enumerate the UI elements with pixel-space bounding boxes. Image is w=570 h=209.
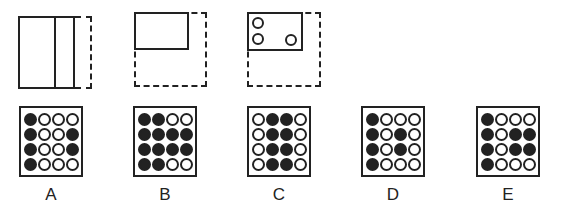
filled-dot	[481, 113, 494, 126]
empty-dot	[294, 113, 307, 126]
empty-dot	[38, 113, 51, 126]
option-b-box[interactable]	[133, 106, 197, 177]
fig2-solid-rect	[134, 12, 189, 50]
filled-dot	[66, 143, 79, 156]
filled-dot	[366, 128, 379, 141]
empty-dot	[294, 143, 307, 156]
empty-dot	[294, 128, 307, 141]
filled-dot	[509, 128, 522, 141]
filled-dot	[180, 143, 193, 156]
empty-dot	[38, 128, 51, 141]
filled-dot	[180, 128, 193, 141]
empty-dot	[495, 143, 508, 156]
filled-dot	[24, 158, 37, 171]
empty-dot	[252, 158, 265, 171]
filled-dot	[152, 158, 165, 171]
filled-dot	[509, 143, 522, 156]
filled-dot	[166, 128, 179, 141]
fig1-divider-line	[54, 16, 56, 89]
empty-dot	[52, 143, 65, 156]
fig1-outer-rect	[18, 16, 75, 89]
filled-dot	[152, 128, 165, 141]
filled-dot	[138, 113, 151, 126]
dot-grid	[24, 113, 78, 172]
empty-dot	[180, 113, 193, 126]
empty-dot	[495, 113, 508, 126]
filled-dot	[266, 128, 279, 141]
empty-dot	[252, 113, 265, 126]
filled-dot	[481, 143, 494, 156]
filled-dot	[138, 128, 151, 141]
empty-dot	[408, 113, 421, 126]
option-c-box[interactable]	[247, 106, 311, 177]
filled-dot	[280, 158, 293, 171]
empty-dot	[380, 113, 393, 126]
option-d-label: D	[361, 185, 425, 205]
empty-dot	[252, 143, 265, 156]
filled-dot	[166, 143, 179, 156]
filled-dot	[24, 113, 37, 126]
empty-dot	[380, 158, 393, 171]
filled-dot	[280, 113, 293, 126]
filled-dot	[266, 113, 279, 126]
empty-dot	[180, 158, 193, 171]
option-d-box[interactable]	[361, 106, 425, 177]
option-c-label: C	[247, 185, 311, 205]
fig3-circle-top-left	[252, 17, 264, 29]
empty-dot	[294, 158, 307, 171]
empty-dot	[408, 158, 421, 171]
filled-dot	[138, 143, 151, 156]
empty-dot	[408, 128, 421, 141]
empty-dot	[252, 128, 265, 141]
option-e-box[interactable]	[476, 106, 540, 177]
dot-grid	[366, 113, 420, 172]
dot-grid	[481, 113, 535, 172]
empty-dot	[166, 113, 179, 126]
option-b-label: B	[133, 185, 197, 205]
filled-dot	[366, 158, 379, 171]
empty-dot	[523, 113, 536, 126]
filled-dot	[152, 143, 165, 156]
filled-dot	[394, 143, 407, 156]
filled-dot	[366, 113, 379, 126]
filled-dot	[266, 143, 279, 156]
empty-dot	[523, 158, 536, 171]
filled-dot	[523, 128, 536, 141]
dot-grid	[138, 113, 192, 172]
filled-dot	[280, 128, 293, 141]
filled-dot	[152, 113, 165, 126]
empty-dot	[408, 143, 421, 156]
empty-dot	[166, 158, 179, 171]
filled-dot	[481, 128, 494, 141]
option-a-box[interactable]	[19, 106, 83, 177]
filled-dot	[66, 128, 79, 141]
filled-dot	[24, 143, 37, 156]
filled-dot	[523, 143, 536, 156]
filled-dot	[366, 143, 379, 156]
fig3-circle-bottom-right	[285, 34, 297, 46]
filled-dot	[394, 128, 407, 141]
fig1-dashed-strip	[75, 16, 92, 89]
option-a-label: A	[19, 185, 83, 205]
empty-dot	[394, 113, 407, 126]
filled-dot	[266, 158, 279, 171]
filled-dot	[24, 128, 37, 141]
empty-dot	[38, 143, 51, 156]
filled-dot	[280, 143, 293, 156]
empty-dot	[509, 158, 522, 171]
empty-dot	[52, 128, 65, 141]
empty-dot	[66, 158, 79, 171]
dot-grid	[252, 113, 306, 172]
fig3-circle-bottom-left	[252, 33, 264, 45]
empty-dot	[394, 158, 407, 171]
empty-dot	[52, 113, 65, 126]
empty-dot	[38, 158, 51, 171]
option-e-label: E	[476, 185, 540, 205]
empty-dot	[66, 113, 79, 126]
filled-dot	[481, 158, 494, 171]
empty-dot	[380, 128, 393, 141]
empty-dot	[495, 128, 508, 141]
empty-dot	[52, 158, 65, 171]
empty-dot	[509, 113, 522, 126]
filled-dot	[138, 158, 151, 171]
